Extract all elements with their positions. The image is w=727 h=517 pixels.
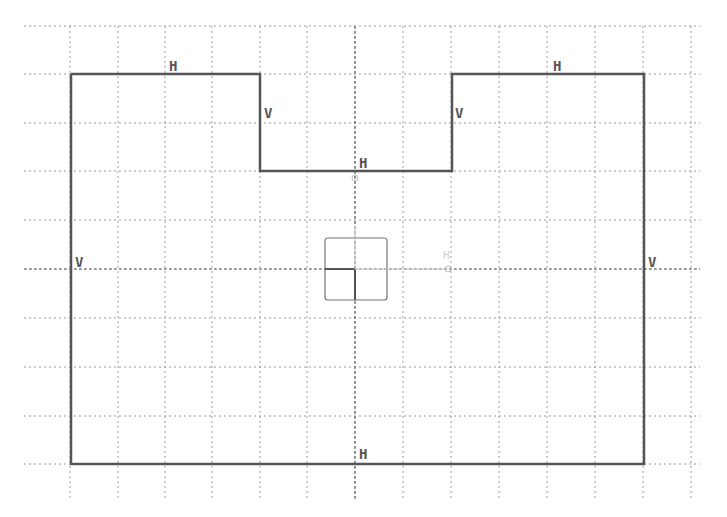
vertical-constraint-icon[interactable]: V (455, 106, 463, 120)
vertical-constraint-icon[interactable]: V (648, 255, 656, 269)
sketch-canvas[interactable] (0, 0, 727, 517)
vertical-constraint-icon[interactable]: V (75, 255, 83, 269)
horizontal-constraint-icon[interactable]: H (169, 59, 177, 73)
vertical-constraint-icon[interactable]: V (264, 106, 272, 120)
origin-marker[interactable] (325, 226, 451, 300)
sketch-axes (24, 26, 700, 500)
origin-ghost-label: H (443, 250, 450, 261)
horizontal-constraint-icon[interactable]: H (553, 59, 561, 73)
grid (24, 26, 700, 500)
horizontal-constraint-icon[interactable]: H (359, 156, 367, 170)
horizontal-constraint-icon[interactable]: H (359, 447, 367, 461)
